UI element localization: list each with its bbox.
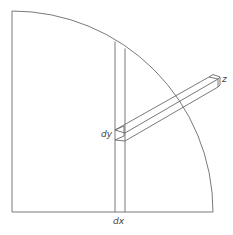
prism-front-face [115, 126, 124, 140]
prism-edge-mid [125, 79, 218, 133]
label-z: z [221, 74, 227, 84]
label-dy: dy [101, 129, 113, 139]
label-dx: dx [113, 216, 125, 226]
prism-edge-bottom [125, 87, 218, 141]
prism-edge-top [115, 77, 209, 130]
diagram-canvas: dy dx z [0, 0, 233, 235]
region-arc [12, 11, 213, 212]
